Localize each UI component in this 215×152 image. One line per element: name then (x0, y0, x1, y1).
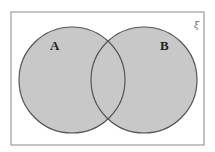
set-a-label: A (50, 38, 60, 53)
venn-diagram: A B ξ (0, 0, 215, 152)
set-b-label: B (160, 38, 169, 53)
